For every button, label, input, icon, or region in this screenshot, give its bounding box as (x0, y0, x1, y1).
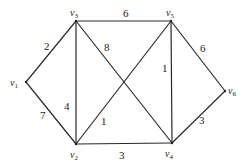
edge-weight-label: 1 (162, 62, 168, 74)
node-label-v6: v6 (228, 85, 236, 98)
edge-weight-label: 6 (200, 42, 206, 54)
edge-weight-label: 6 (123, 7, 129, 19)
edge-v5-v4 (171, 21, 172, 143)
edge-v2-v4 (76, 143, 172, 144)
nodes-group: v1v2v3v4v5v6 (10, 7, 236, 162)
node-v4 (171, 142, 173, 144)
node-v5 (170, 20, 172, 22)
edge-weight-label: 8 (104, 41, 110, 53)
edge-weight-label: 1 (101, 115, 107, 127)
node-v1 (25, 81, 27, 83)
edge-weight-label: 2 (44, 40, 50, 52)
node-label-v2: v2 (70, 149, 78, 162)
edge-weight-label: 4 (64, 100, 70, 112)
node-v2 (75, 143, 77, 145)
edge-v1-v2 (26, 82, 76, 144)
edge-weight-label: 3 (199, 114, 205, 126)
node-v6 (224, 90, 226, 92)
node-label-v3: v3 (70, 7, 78, 20)
node-label-v5: v5 (166, 7, 174, 20)
node-label-v1: v1 (10, 77, 18, 90)
edge-weight-label: 3 (119, 149, 125, 161)
edges-group: 2764811633 (26, 7, 225, 161)
edge-v5-v6 (171, 21, 225, 91)
edge-weight-label: 7 (40, 109, 46, 121)
graph-diagram: 2764811633 v1v2v3v4v5v6 (0, 0, 247, 168)
node-v3 (75, 20, 77, 22)
node-label-v4: v4 (165, 148, 173, 161)
edge-v1-v3 (26, 21, 76, 82)
